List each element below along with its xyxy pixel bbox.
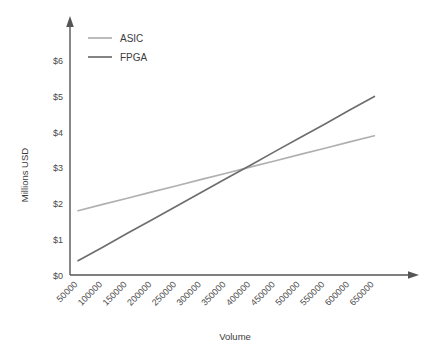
x-tick-label: 100000 xyxy=(76,279,104,307)
y-tick-label: $1 xyxy=(53,235,63,245)
y-axis-arrowhead xyxy=(66,16,74,27)
x-tick-label: 550000 xyxy=(298,279,326,307)
x-tick-label: 350000 xyxy=(199,279,227,307)
legend: ASIC FPGA xyxy=(88,33,148,63)
x-tick-label: 300000 xyxy=(175,279,203,307)
x-tick-label: 500000 xyxy=(273,279,301,307)
y-tick-label: $4 xyxy=(53,128,63,138)
x-tick-label: 250000 xyxy=(150,279,178,307)
y-tick-labels: $0 $1 $2 $3 $4 $5 $6 xyxy=(53,56,63,280)
y-tick-label: $5 xyxy=(53,92,63,102)
y-tick-label: $6 xyxy=(53,56,63,66)
x-tick-label: 450000 xyxy=(249,279,277,307)
x-tick-label: 150000 xyxy=(100,279,128,307)
x-tick-label: 650000 xyxy=(347,279,375,307)
x-axis-arrowhead xyxy=(408,271,419,279)
x-tick-label: 600000 xyxy=(323,279,351,307)
x-tick-labels: 50000 100000 150000 200000 250000 300000… xyxy=(55,279,376,307)
x-axis xyxy=(70,271,419,279)
legend-label-asic: ASIC xyxy=(120,33,143,44)
y-tick-label: $3 xyxy=(53,163,63,173)
chart-figure: $0 $1 $2 $3 $4 $5 $6 50000 100000 150000… xyxy=(0,0,442,355)
y-axis xyxy=(66,16,74,275)
y-tick-label: $2 xyxy=(53,199,63,209)
y-tick-label: $0 xyxy=(53,271,63,281)
x-axis-title: Volume xyxy=(219,331,251,342)
y-axis-title: Millions USD xyxy=(19,148,30,203)
series-line-asic xyxy=(78,136,374,211)
line-chart-canvas: $0 $1 $2 $3 $4 $5 $6 50000 100000 150000… xyxy=(0,0,442,355)
x-tick-label: 200000 xyxy=(125,279,153,307)
legend-label-fpga: FPGA xyxy=(120,52,148,63)
x-tick-label: 400000 xyxy=(224,279,252,307)
series-line-fpga xyxy=(78,97,374,261)
